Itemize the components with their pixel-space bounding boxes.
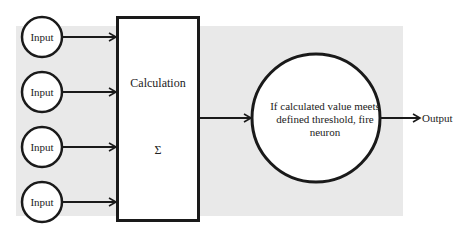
output-label: Output	[422, 112, 453, 124]
input-label-1: Input	[22, 31, 62, 43]
input-label-2: Input	[22, 86, 62, 98]
calculation-label: Calculation	[116, 76, 200, 91]
input-arrows	[63, 37, 116, 202]
input-node-circles	[22, 17, 62, 222]
diagram-connectors	[0, 0, 471, 239]
calculation-box	[116, 16, 200, 222]
sigma-symbol: Σ	[116, 143, 200, 158]
input-label-4: Input	[22, 196, 62, 208]
neuron-threshold-text: If calculated value meets defined thresh…	[265, 100, 385, 139]
input-label-3: Input	[22, 141, 62, 153]
